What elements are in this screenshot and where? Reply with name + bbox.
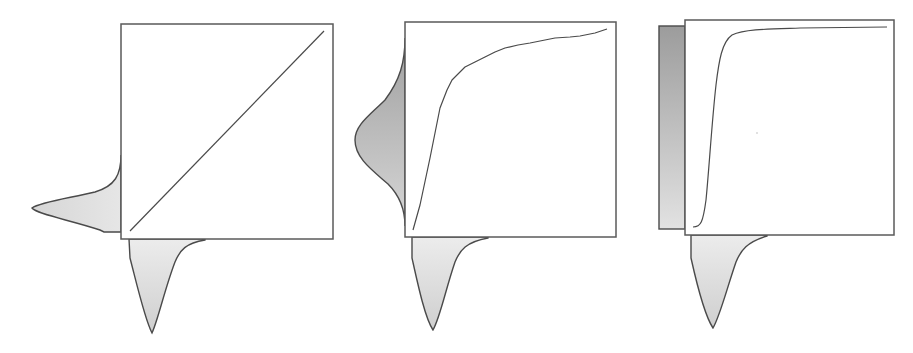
left-density-uniform bbox=[659, 26, 685, 229]
mapping-box bbox=[405, 22, 616, 237]
left-density-skewed bbox=[32, 155, 121, 232]
bottom-density-skewed bbox=[412, 237, 488, 330]
panel-3 bbox=[659, 20, 894, 328]
mapping-box bbox=[685, 20, 894, 235]
panel-2 bbox=[355, 22, 616, 330]
pit-diagram bbox=[0, 0, 913, 353]
bottom-density-skewed bbox=[129, 239, 205, 333]
stray-dot bbox=[756, 132, 758, 134]
bottom-density-skewed bbox=[691, 235, 767, 328]
left-density-bell bbox=[355, 38, 405, 226]
panel-1 bbox=[32, 24, 333, 333]
